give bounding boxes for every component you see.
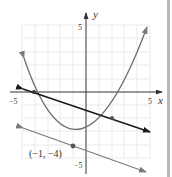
intersection-point-left	[32, 90, 36, 94]
y-axis-label: y	[92, 8, 98, 20]
vertex-point	[71, 144, 76, 149]
y-tick-5: 5	[78, 23, 82, 32]
page-edge-bar	[167, 0, 170, 177]
intersection-point-right	[110, 116, 114, 120]
x-tick-5: 5	[148, 97, 152, 106]
graph-figure: y x −5 5 5 −5 (−1, −4)	[0, 0, 172, 177]
y-tick-neg5: −5	[74, 161, 83, 170]
x-tick-neg5: −5	[9, 97, 18, 106]
x-axis-label: x	[157, 94, 163, 106]
vertex-label: (−1, −4)	[29, 148, 62, 160]
